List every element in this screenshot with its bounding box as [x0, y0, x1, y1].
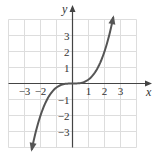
axes: [9, 5, 153, 148]
x-tick-label: −2: [35, 85, 47, 97]
y-tick-label: 2: [64, 46, 70, 58]
y-axis-label: y: [61, 2, 68, 16]
y-tick-label: 1: [64, 62, 70, 74]
y-tick-label: 3: [64, 30, 70, 42]
x-tick-label: −3: [19, 85, 31, 97]
x-tick-label: 1: [86, 85, 92, 97]
y-tick-label: −1: [58, 94, 70, 106]
x-tick-label: 3: [118, 85, 124, 97]
y-axis-arrow-icon: [70, 5, 76, 12]
chart: −3−2123321−1−2−3 x y: [0, 0, 157, 158]
y-tick-label: −2: [58, 110, 70, 122]
y-tick-label: −3: [58, 126, 70, 138]
x-axis-label: x: [145, 85, 152, 99]
x-tick-label: 2: [102, 85, 108, 97]
